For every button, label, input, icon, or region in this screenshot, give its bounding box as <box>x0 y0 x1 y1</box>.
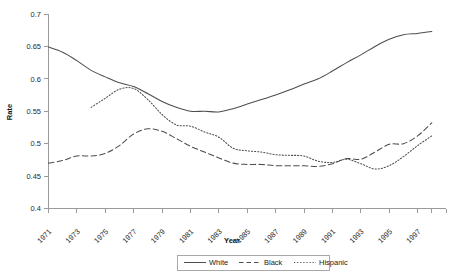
data-series-group <box>49 32 432 169</box>
series-line-black <box>49 123 432 167</box>
y-tick-label: 0.45 <box>26 172 41 181</box>
y-axis-title: Rate <box>5 104 14 120</box>
x-tick-label: 1989 <box>291 227 309 245</box>
y-tick-label: 0.5 <box>31 139 41 148</box>
legend-label-hispanic: Hispanic <box>319 258 348 267</box>
x-tick-label: 1991 <box>319 227 337 245</box>
series-line-white <box>49 32 432 113</box>
chart-legend: WhiteBlackHispanic <box>178 256 349 271</box>
x-tick-label: 1987 <box>262 227 280 245</box>
x-tick-label: 1993 <box>348 227 366 245</box>
x-tick-label: 1995 <box>376 227 394 245</box>
x-tick-label: 1981 <box>177 227 195 245</box>
x-tick-label: 1975 <box>92 227 110 245</box>
y-tick-label: 0.6 <box>31 75 41 84</box>
x-tick-label: 1971 <box>35 227 53 245</box>
x-tick-label: 1979 <box>149 227 167 245</box>
chart-canvas: Rate 0.70.650.60.550.50.450.4 1971197319… <box>0 0 465 277</box>
y-tick-label: 0.4 <box>31 204 41 213</box>
y-tick-label: 0.55 <box>26 107 41 116</box>
y-tick-label: 0.65 <box>26 42 41 51</box>
legend-label-white: White <box>209 258 228 267</box>
x-tick-label: 1997 <box>404 227 422 245</box>
y-axis-ticks: 0.70.650.60.550.50.450.4 <box>26 10 48 214</box>
x-axis-title: Year <box>224 236 240 245</box>
line-chart: Rate 0.70.650.60.550.50.450.4 1971197319… <box>0 0 465 277</box>
legend-label-black: Black <box>264 258 283 267</box>
y-tick-label: 0.7 <box>31 10 41 19</box>
x-tick-label: 1983 <box>206 227 224 245</box>
x-axis-ticks: 1971197319751977197919811983198519871989… <box>35 209 446 246</box>
x-tick-label: 1977 <box>120 227 138 245</box>
x-tick-label: 1973 <box>64 227 82 245</box>
